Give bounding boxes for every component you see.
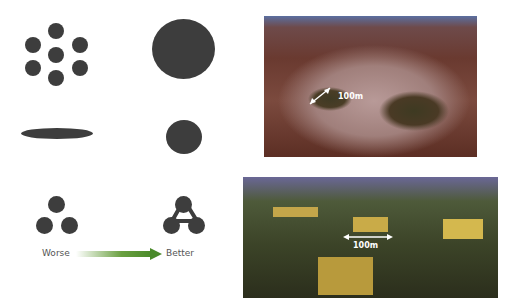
scale-label: 100m <box>353 241 378 250</box>
forest-clearings-photo: 100m <box>243 177 498 298</box>
better-label: Better <box>166 248 194 258</box>
worse-label: Worse <box>42 248 70 258</box>
large-patch-icon <box>152 19 215 79</box>
elongated-patch-icon <box>21 128 93 139</box>
compact-patch-icon <box>166 120 202 154</box>
arrow-right-icon <box>150 248 162 260</box>
deforested-fragments-photo: 100m <box>264 16 477 157</box>
scale-label: 100m <box>338 92 363 101</box>
arrow-shaft <box>76 251 152 257</box>
